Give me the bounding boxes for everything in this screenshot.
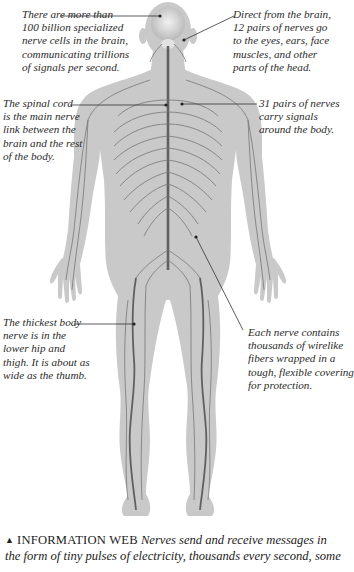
- leader-cranial: [184, 16, 234, 40]
- callout-cranial-nerves: Direct from the brain, 12 pairs of nerve…: [233, 8, 331, 74]
- triangle-marker-icon: ▲: [5, 535, 14, 545]
- brain: [151, 7, 185, 41]
- nervous-system-figure: [0, 0, 349, 530]
- callout-spinal-cord: The spinal cord is the main nerve link b…: [3, 97, 82, 163]
- caption-line-1: ▲ INFORMATION WEB Nerves send and receiv…: [5, 532, 350, 548]
- caption-text-1: Nerves send and receive messages in: [141, 533, 327, 547]
- caption-heading: INFORMATION WEB: [17, 533, 138, 547]
- callout-brain: There are more than 100 billion speciali…: [22, 8, 129, 74]
- callout-spinal-nerves: 31 pairs of nerves carry signals around …: [259, 97, 339, 137]
- figure-caption: ▲ INFORMATION WEB Nerves send and receiv…: [5, 532, 350, 564]
- callout-sciatic-nerve: The thickest body nerve is in the lower …: [3, 316, 90, 382]
- callout-nerve-fibers: Each nerve contains thousands of wirelik…: [248, 326, 354, 392]
- caption-text-2: the form of tiny pulses of electricity, …: [5, 548, 350, 564]
